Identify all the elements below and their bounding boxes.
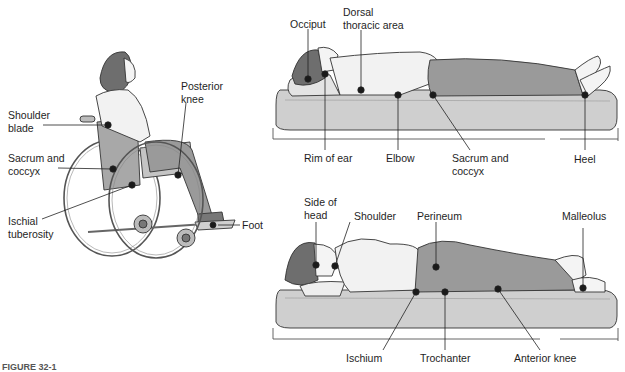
label-sacrum-coccyx-sitting: Sacrum and coccyx [8, 152, 65, 177]
label-elbow: Elbow [386, 152, 415, 165]
label-trochanter: Trochanter [420, 352, 470, 365]
label-occiput: Occiput [290, 18, 326, 31]
label-sacrum-coccyx-supine: Sacrum and coccyx [452, 152, 509, 177]
label-shoulder: Shoulder [354, 210, 396, 223]
figure-caption: FIGURE 32-1 [2, 362, 57, 372]
label-heel: Heel [574, 153, 596, 166]
label-ischial-tuberosity: Ischial tuberosity [8, 215, 54, 240]
label-perineum: Perineum [417, 210, 462, 223]
label-posterior-knee: Posterior knee [181, 80, 223, 105]
label-malleolus: Malleolus [562, 210, 606, 223]
label-dorsal-thoracic-area: Dorsal thoracic area [343, 6, 404, 31]
label-side-of-head: Side of head [304, 196, 337, 221]
label-anterior-knee: Anterior knee [514, 352, 576, 365]
label-ischium: Ischium [346, 352, 382, 365]
label-rim-of-ear: Rim of ear [304, 152, 352, 165]
label-foot: Foot [242, 219, 263, 232]
label-shoulder-blade: Shoulder blade [8, 109, 50, 134]
